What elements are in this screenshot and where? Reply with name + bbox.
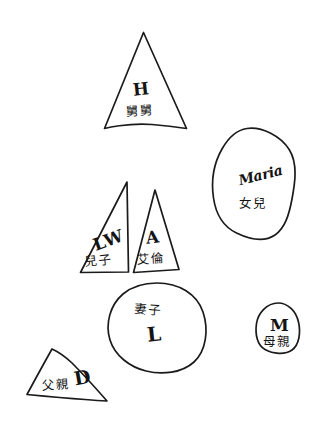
- node-label-kinship-alan: 艾倫: [137, 252, 166, 266]
- node-label-initial-alan: A: [145, 228, 160, 246]
- node-label-kinship-wife: 妻子: [134, 303, 163, 317]
- node-label-initial-mother: M: [270, 317, 289, 334]
- node-label-kinship-mother: 母親: [263, 336, 291, 349]
- node-label-kinship-son: 兒子: [84, 254, 113, 269]
- node-label-initial-father: D: [72, 367, 92, 389]
- shape-triangle-father: [27, 349, 107, 401]
- node-label-kinship-daughter: 女兒: [239, 198, 267, 211]
- diagram-strokes: [0, 0, 318, 435]
- node-label-kinship-uncle: 舅舅: [126, 104, 155, 118]
- node-label-initial-wife: L: [146, 323, 163, 344]
- diagram-canvas: H 舅舅 Maria 女兒 LW 兒子 A 艾倫 妻子 L M 母親 D 父親: [0, 0, 318, 435]
- node-label-kinship-father: 父親: [42, 378, 71, 392]
- node-label-initial-uncle: H: [132, 80, 150, 99]
